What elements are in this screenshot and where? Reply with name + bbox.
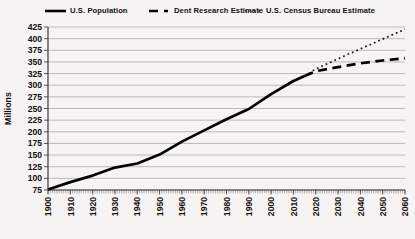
y-tick-label: 425 [28,22,43,32]
y-tick-label: 150 [28,150,43,160]
x-tick-label: 1940 [132,197,142,216]
y-tick-label: 300 [28,80,43,90]
x-tick-label: 1900 [43,197,53,216]
series-dotted-line [305,29,405,76]
y-tick-label: 350 [28,57,43,67]
x-tick-label: 1920 [88,197,98,216]
x-tick-label: 1950 [155,197,165,216]
x-tick-label: 2060 [400,197,410,216]
y-tick-label: 175 [28,138,43,148]
x-tick-label: 1910 [66,197,76,216]
y-axis-title: Millions [3,92,13,125]
x-tick-label: 1970 [199,197,209,216]
y-tick-label: 275 [28,92,43,102]
x-tick-label: 2010 [289,197,299,216]
y-tick-label: 325 [28,69,43,79]
y-tick-label: 100 [28,173,43,183]
y-tick-label: 250 [28,104,43,114]
y-tick-label: 125 [28,162,43,172]
x-tick-label: 1990 [244,197,254,216]
series-solid-line [48,76,305,190]
x-tick-label: 2030 [333,197,343,216]
population-chart-figure: U.S. Population Dent Research Estimate U… [0,0,415,239]
x-tick-label: 1960 [177,197,187,216]
x-tick-label: 2040 [356,197,366,216]
x-tick-label: 2020 [311,197,321,216]
y-tick-label: 75 [32,185,42,195]
x-tick-label: 1930 [110,197,120,216]
x-tick-label: 1980 [222,197,232,216]
population-chart: 7510012515017520022525027530032535037540… [0,0,415,239]
y-tick-label: 400 [28,34,43,44]
x-tick-label: 2050 [378,197,388,216]
y-tick-label: 375 [28,45,43,55]
x-tick-label: 2000 [266,197,276,216]
y-tick-label: 200 [28,127,43,137]
y-tick-label: 225 [28,115,43,125]
